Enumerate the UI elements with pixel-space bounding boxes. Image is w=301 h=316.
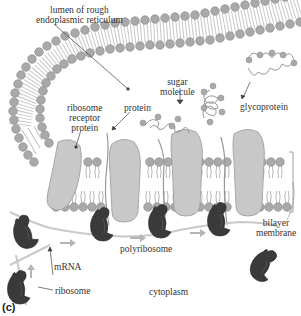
bilayer-bracket — [289, 152, 293, 212]
label-cytoplasm: cytoplasm — [149, 287, 188, 297]
label-sugar-line2: molecule — [160, 87, 195, 97]
label-protein: protein — [124, 103, 151, 113]
label-glycoprotein: glycoprotein — [240, 102, 288, 112]
label-ribo-rec-line1: ribosome — [67, 103, 102, 113]
mrna-strand — [10, 212, 278, 236]
diagram-graphics — [0, 0, 301, 316]
label-ribosome: ribosome — [55, 286, 90, 296]
label-mrna: mRNA — [54, 262, 81, 272]
label-ribo-rec-line2: receptor — [67, 113, 102, 123]
panel-label: (c) — [2, 301, 15, 313]
label-sugar-molecule: sugar molecule — [160, 77, 195, 97]
label-lumen: lumen of rough endoplasmic reticulum — [36, 5, 123, 25]
label-bilayer-line2: membrane — [256, 228, 296, 238]
rough-er-diagram: lumen of rough endoplasmic reticulum sug… — [0, 0, 301, 316]
label-ribo-rec-line3: protein — [67, 123, 102, 133]
label-lumen-line1: lumen of rough — [36, 5, 123, 15]
label-bilayer-membrane: bilayer membrane — [256, 218, 296, 238]
label-ribosome-receptor: ribosome receptor protein — [67, 103, 102, 133]
label-bilayer-line1: bilayer — [256, 218, 296, 228]
label-polyribosome: polyribosome — [120, 244, 172, 254]
label-lumen-line2: endoplasmic reticulum — [36, 15, 123, 25]
label-sugar-line1: sugar — [160, 77, 195, 87]
